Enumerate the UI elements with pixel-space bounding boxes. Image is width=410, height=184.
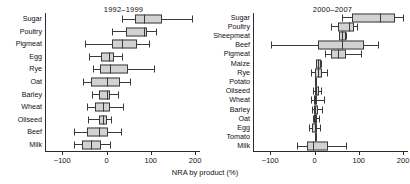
box-iqr [338,22,354,31]
median-line [349,22,350,31]
median-line [103,103,104,112]
whisker-cap [311,69,312,76]
median-line [315,114,316,123]
x-tick-label: 0 [312,156,316,165]
boxplot-figure: 1992–1999 −1000100200SugarPoultryPigmeat… [0,0,410,184]
whisker-cap [297,143,298,150]
box-iqr [307,142,327,151]
panel-1992-1999: 1992–1999 −1000100200SugarPoultryPigmeat… [0,0,205,184]
whisker-cap [192,16,193,23]
whisker-cap [85,41,86,48]
whisker-cap [346,33,347,40]
median-line [316,87,317,96]
boxplot-wheat [205,96,410,105]
median-line [315,96,316,105]
whisker-cap [346,143,347,150]
whisker-cap [403,14,404,21]
median-line [380,13,381,22]
x-tick [270,152,271,155]
whisker-cap [325,51,326,58]
whisker-cap [156,28,157,35]
x-tick [107,152,108,155]
median-line [103,115,104,124]
whisker-cap [327,69,328,76]
whisker-cap [130,79,131,86]
median-line [107,78,108,87]
boxplot-pigmeat [0,40,205,49]
median-line [91,140,92,149]
boxplot-egg [205,124,410,133]
boxplot-maize [205,59,410,68]
median-line [313,142,314,151]
whisker-cap [357,23,358,30]
whisker-cap [88,116,89,123]
box-iqr [99,90,110,99]
x-axis-line [253,151,408,152]
whisker-cap [311,97,312,104]
median-line [144,27,145,36]
x-tick-label: 200 [397,156,410,165]
boxplot-sugar [0,15,205,24]
whisker-cap [342,14,343,21]
x-axis-title: NRA by product (%) [0,168,410,177]
median-line [318,59,319,68]
whisker-cap [309,125,310,132]
boxplot-oat [205,114,410,123]
whisker-cap [319,115,320,122]
whisker-cap [118,91,119,98]
x-tick-label: 0 [104,156,108,165]
median-line [315,105,316,114]
boxplot-beef [0,128,205,137]
x-tick [315,152,316,155]
whisker-cap [321,60,322,67]
boxplot-milk [0,140,205,149]
whisker-cap [154,66,155,73]
whisker-cap [74,129,75,136]
boxplot-egg [0,52,205,61]
boxplot-tomato [205,133,410,142]
plot-area-right: −1000100200SugarPoultrySheepmeatBeefPigm… [205,0,410,184]
whisker-cap [92,91,93,98]
whisker-cap [331,23,332,30]
x-tick-label: 100 [145,156,158,165]
whisker-cap [378,42,379,49]
median-line [338,50,339,59]
median-line [99,128,100,137]
whisker-cap [320,125,321,132]
median-line [342,41,343,50]
boxplot-sheepmeat [205,32,410,41]
boxplot-sugar [205,13,410,22]
whisker-cap [321,88,322,95]
x-tick-label: −100 [262,156,279,165]
plot-area-left: −1000100200SugarPoultryPigmeatEggRyeOatB… [0,0,205,184]
median-line [342,32,343,41]
median-line [110,65,111,74]
median-line [107,90,108,99]
whisker-cap [123,104,124,111]
boxplot-poultry [0,27,205,36]
box-iqr [331,50,347,59]
panel-2000-2007: 2000–2007 −1000100200SugarPoultrySheepme… [205,0,410,184]
boxplot-barley [205,105,410,114]
whisker-cap [271,42,272,49]
whisker-cap [121,129,122,136]
boxplot-barley [0,90,205,99]
x-tick-label: 100 [353,156,366,165]
median-line [144,15,145,24]
x-tick [195,152,196,155]
whisker-cap [93,66,94,73]
median-line [315,133,316,142]
boxplot-oilseed [205,87,410,96]
x-tick-label: 200 [189,156,202,165]
box-iqr [135,15,162,24]
median-line [315,78,316,87]
box-iqr [318,41,365,50]
boxplot-beef [205,41,410,50]
box-iqr [91,78,120,87]
median-line [109,52,110,61]
boxplot-rye [205,68,410,77]
whisker-cap [122,53,123,60]
boxplot-oat [0,78,205,87]
x-tick [151,152,152,155]
whisker-cap [361,51,362,58]
